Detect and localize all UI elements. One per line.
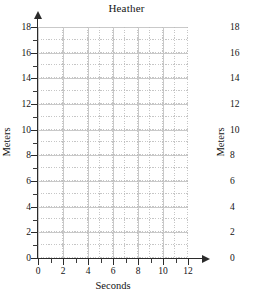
- y-axis-tick: [31, 130, 38, 131]
- x-axis-tick: [176, 258, 177, 263]
- y-axis-tick: [33, 66, 38, 67]
- x-axis-tick-label: 10: [152, 266, 174, 276]
- y-axis-tick: [31, 207, 38, 208]
- y-axis-right-tick-label: 18: [230, 22, 248, 32]
- x-axis-tick-label: 0: [27, 266, 49, 276]
- y-axis-right-tick-label: 2: [230, 227, 248, 237]
- x-axis-tick: [63, 258, 64, 265]
- y-axis-right-tick-label: 0: [230, 253, 248, 263]
- x-axis-tick-label: 6: [102, 266, 124, 276]
- x-axis-tick: [51, 258, 52, 263]
- chart-container: Heather 024681012141618 024681012141618 …: [0, 0, 253, 298]
- y-axis-tick: [33, 91, 38, 92]
- y-axis-right-tick-label: 6: [230, 176, 248, 186]
- y-axis-arrow-icon: [34, 11, 42, 19]
- x-axis-tick-label: 12: [177, 266, 199, 276]
- y-axis-tick: [31, 258, 38, 259]
- x-axis-tick: [76, 258, 77, 263]
- y-axis-right-tick-label: 16: [230, 48, 248, 58]
- y-axis-tick: [31, 104, 38, 105]
- grid-minor-horizontal-lines: [38, 27, 188, 258]
- x-axis-tick: [88, 258, 89, 265]
- y-axis-tick: [31, 181, 38, 182]
- plot-area[interactable]: [38, 27, 188, 258]
- y-axis-line: [37, 18, 38, 259]
- x-axis-tick: [163, 258, 164, 265]
- y-axis-left-tick-label: 16: [9, 48, 31, 58]
- y-axis-right-tick-label: 10: [230, 125, 248, 135]
- y-axis-right-tick-label: 14: [230, 73, 248, 83]
- x-axis-tick-label: 2: [52, 266, 74, 276]
- y-axis-left-tick-label: 2: [9, 227, 31, 237]
- x-axis-tick: [188, 258, 189, 265]
- y-axis-left-tick-label: 0: [9, 253, 31, 263]
- y-axis-tick: [31, 155, 38, 156]
- y-axis-left-tick-label: 14: [9, 73, 31, 83]
- y-axis-tick: [33, 245, 38, 246]
- y-axis-tick: [33, 194, 38, 195]
- x-axis-line: [37, 258, 203, 259]
- y-axis-right-tick-label: 12: [230, 99, 248, 109]
- x-axis-arrow-icon: [202, 255, 210, 263]
- x-axis-tick: [126, 258, 127, 263]
- y-axis-tick: [33, 143, 38, 144]
- x-axis-tick: [113, 258, 114, 265]
- y-axis-tick: [33, 220, 38, 221]
- y-axis-left-tick-label: 18: [9, 22, 31, 32]
- y-axis-tick: [31, 53, 38, 54]
- x-axis-tick: [151, 258, 152, 263]
- y-axis-tick: [31, 232, 38, 233]
- x-axis-tick-label: 4: [77, 266, 99, 276]
- x-axis-tick: [38, 258, 39, 265]
- y-axis-left-tick-label: 6: [9, 176, 31, 186]
- x-axis-tick: [101, 258, 102, 263]
- x-axis-tick: [138, 258, 139, 265]
- y-axis-right-tick-label: 8: [230, 150, 248, 160]
- y-axis-left-tick-label: 12: [9, 99, 31, 109]
- y-axis-tick: [31, 27, 38, 28]
- y-axis-tick: [33, 40, 38, 41]
- y-axis-left-tick-label: 4: [9, 202, 31, 212]
- x-axis-tick-label: 8: [127, 266, 149, 276]
- y-axis-right-title: Meters: [215, 117, 227, 167]
- y-axis-tick: [33, 168, 38, 169]
- y-axis-left-title: Meters: [1, 117, 13, 167]
- x-axis-title: Seconds: [38, 280, 188, 292]
- y-axis-tick: [33, 117, 38, 118]
- y-axis-tick: [31, 78, 38, 79]
- y-axis-right-tick-label: 4: [230, 202, 248, 212]
